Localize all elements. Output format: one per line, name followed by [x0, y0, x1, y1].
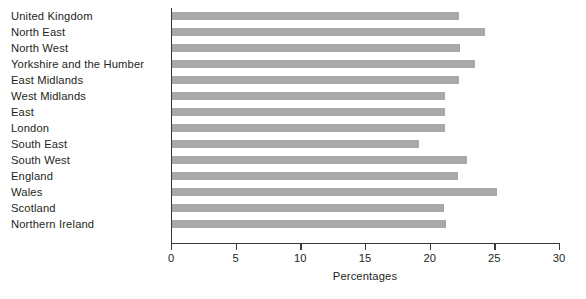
- x-tick-label: 5: [233, 252, 239, 264]
- category-label: South East: [11, 136, 67, 152]
- x-tick-mark: [171, 244, 172, 250]
- category-label: London: [11, 120, 49, 136]
- bar: [172, 156, 467, 164]
- bar: [172, 172, 458, 180]
- category-label: United Kingdom: [11, 8, 93, 24]
- category-label: Scotland: [11, 200, 56, 216]
- bar: [172, 76, 459, 84]
- category-label: Northern Ireland: [11, 216, 94, 232]
- x-axis-title: Percentages: [171, 270, 559, 282]
- category-label: East: [11, 104, 34, 120]
- x-tick-mark: [430, 244, 431, 250]
- x-tick-mark: [365, 244, 366, 250]
- bar: [172, 140, 419, 148]
- bar: [172, 92, 445, 100]
- bar: [172, 108, 445, 116]
- x-tick-label: 10: [294, 252, 306, 264]
- category-label: North East: [11, 24, 65, 40]
- category-label: Yorkshire and the Humber: [11, 56, 144, 72]
- x-tick-label: 15: [359, 252, 371, 264]
- bar: [172, 12, 459, 20]
- bar: [172, 28, 485, 36]
- x-tick-mark: [236, 244, 237, 250]
- bar-chart: United KingdomNorth EastNorth WestYorksh…: [0, 0, 586, 299]
- x-tick-mark: [494, 244, 495, 250]
- category-axis-labels: United KingdomNorth EastNorth WestYorksh…: [0, 8, 163, 240]
- x-tick-label: 0: [168, 252, 174, 264]
- bar: [172, 124, 445, 132]
- x-tick-label: 25: [488, 252, 500, 264]
- category-label: England: [11, 168, 53, 184]
- bar: [172, 60, 475, 68]
- category-label: West Midlands: [11, 88, 86, 104]
- category-label: South West: [11, 152, 70, 168]
- category-label: Wales: [11, 184, 42, 200]
- x-tick-label: 20: [423, 252, 435, 264]
- x-tick-mark: [559, 244, 560, 250]
- bar: [172, 220, 446, 228]
- bar: [172, 44, 460, 52]
- x-tick-label: 30: [553, 252, 565, 264]
- category-label: East Midlands: [11, 72, 83, 88]
- bar: [172, 204, 444, 212]
- category-label: North West: [11, 40, 68, 56]
- bar: [172, 188, 497, 196]
- x-tick-mark: [300, 244, 301, 250]
- plot-area: 051015202530: [171, 8, 559, 244]
